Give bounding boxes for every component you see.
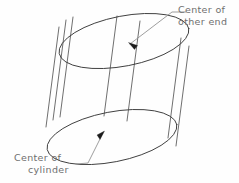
label-other-end-line-2: other end [178, 16, 227, 28]
generator-line-3 [60, 17, 73, 117]
top-ellipse-group [54, 4, 193, 78]
generator-lines-group [46, 16, 189, 146]
top-end-ellipse [54, 4, 193, 78]
generator-line-1 [46, 27, 59, 127]
arrowhead-cylinder-icon [97, 131, 105, 140]
leader-cylinder-group [76, 131, 105, 164]
label-other-end-line-1: Center of [178, 4, 227, 16]
generator-line-5 [127, 21, 140, 121]
generator-line-2 [53, 20, 66, 120]
label-center-of-other-end: Center of other end [178, 4, 227, 27]
cylinder-figure: Center of other end Center of cylinder [0, 0, 239, 183]
generator-line-4 [104, 16, 117, 116]
label-center-of-cylinder: Center of cylinder [14, 152, 69, 175]
label-cylinder-line-1: Center of [14, 152, 69, 164]
label-cylinder-line-2: cylinder [14, 164, 69, 176]
